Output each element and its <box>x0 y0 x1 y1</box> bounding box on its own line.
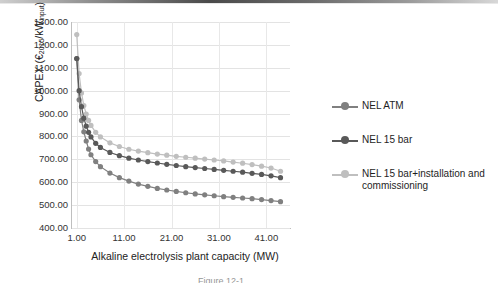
data-point <box>240 161 245 166</box>
y-tick-label: 1200.00 <box>8 40 68 50</box>
data-point <box>221 158 226 163</box>
y-tick-label: 400.00 <box>8 223 68 233</box>
data-point <box>77 88 82 93</box>
x-tick-label: 41.00 <box>243 233 289 243</box>
x-tick-label: 11.00 <box>101 233 147 243</box>
data-point <box>86 146 91 151</box>
data-point <box>117 144 122 149</box>
x-axis-title: Alkaline electrolysis plant capacity (MW… <box>60 250 310 262</box>
data-point <box>202 192 207 197</box>
clipped-caption: Figure 12-1 <box>198 276 310 283</box>
data-point <box>155 186 160 191</box>
data-point <box>231 159 236 164</box>
data-point <box>88 123 93 128</box>
legend-marker-icon-nel-atm <box>332 101 358 112</box>
legend-item-nel-15-bar-install[interactable]: NEL 15 bar+installation andcommissioning <box>332 168 494 192</box>
chart-legend: NEL ATM NEL 15 bar NEL 15 bar+installati… <box>332 100 494 192</box>
data-point <box>231 169 236 174</box>
series-line <box>77 59 281 202</box>
data-point <box>126 178 131 183</box>
y-tick-label: 1300.00 <box>8 17 68 27</box>
series-nel-15-bar-installation-and-commissioning <box>74 32 283 174</box>
data-point <box>193 165 198 170</box>
data-point <box>98 145 103 150</box>
data-point <box>81 116 86 121</box>
data-point <box>164 162 169 167</box>
x-tick-label: 21.00 <box>149 233 195 243</box>
data-point <box>231 195 236 200</box>
series-nel-15-bar <box>74 56 283 180</box>
legend-item-nel-15-bar[interactable]: NEL 15 bar <box>332 134 494 146</box>
legend-label-line2: commissioning <box>362 180 428 191</box>
data-point <box>221 194 226 199</box>
data-point <box>259 197 264 202</box>
data-point <box>145 150 150 155</box>
data-point <box>79 104 84 109</box>
data-point <box>164 187 169 192</box>
data-point <box>88 152 93 157</box>
y-tick-label: 900.00 <box>8 109 68 119</box>
data-point <box>74 56 79 61</box>
data-point <box>84 124 89 129</box>
y-tick-label: 700.00 <box>8 154 68 164</box>
series-nel-atm <box>74 56 283 204</box>
data-point <box>107 140 112 145</box>
scan-artifact-line-soft <box>0 3 498 4</box>
plot-area <box>72 22 290 228</box>
y-tick-label: 1100.00 <box>8 63 68 73</box>
data-point <box>174 163 179 168</box>
legend-marker-icon-nel-15-bar <box>332 135 358 146</box>
data-point <box>86 130 91 135</box>
data-point <box>202 166 207 171</box>
data-point <box>136 148 141 153</box>
data-point <box>278 199 283 204</box>
series-line <box>77 59 281 178</box>
y-tick-label: 800.00 <box>8 131 68 141</box>
data-point <box>145 159 150 164</box>
x-tick-label: 1.00 <box>54 233 100 243</box>
data-point <box>93 159 98 164</box>
legend-item-nel-atm[interactable]: NEL ATM <box>332 100 494 112</box>
data-point <box>183 155 188 160</box>
data-point <box>249 162 254 167</box>
legend-label-line1: NEL 15 bar+installation and <box>362 168 485 179</box>
data-point <box>268 173 273 178</box>
data-point <box>278 169 283 174</box>
data-point <box>259 164 264 169</box>
data-point <box>174 154 179 159</box>
data-point <box>278 175 283 180</box>
data-point <box>183 190 188 195</box>
data-point <box>221 168 226 173</box>
legend-label-nel-15-bar: NEL 15 bar <box>358 134 412 146</box>
data-point <box>240 170 245 175</box>
data-point <box>88 134 93 139</box>
x-tick-label: 31.00 <box>196 233 242 243</box>
data-point <box>126 147 131 152</box>
data-point <box>81 129 86 134</box>
legend-marker-icon-nel-15-bar-install <box>332 169 358 180</box>
data-point <box>155 160 160 165</box>
y-tick-label: 600.00 <box>8 177 68 187</box>
y-tick-label: 1000.00 <box>8 86 68 96</box>
series-plot <box>72 22 290 228</box>
data-point <box>259 172 264 177</box>
data-point <box>249 196 254 201</box>
data-point <box>145 184 150 189</box>
data-point <box>136 181 141 186</box>
data-point <box>174 189 179 194</box>
data-point <box>126 156 131 161</box>
data-point <box>240 195 245 200</box>
data-point <box>193 156 198 161</box>
data-point <box>193 191 198 196</box>
data-point <box>202 157 207 162</box>
data-point <box>183 164 188 169</box>
data-point <box>86 118 91 123</box>
data-point <box>117 153 122 158</box>
data-point <box>93 130 98 135</box>
data-point <box>268 165 273 170</box>
legend-label-nel-15-bar-install: NEL 15 bar+installation andcommissioning <box>358 168 485 192</box>
data-point <box>84 138 89 143</box>
data-point <box>212 167 217 172</box>
data-point <box>212 157 217 162</box>
data-point <box>249 171 254 176</box>
